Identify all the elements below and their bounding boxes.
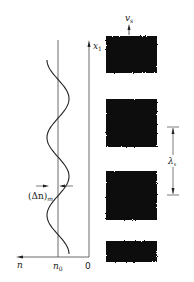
x1-label: x1 [93, 41, 102, 52]
wavelength-arrow-down-icon [172, 188, 175, 194]
zero-label: 0 [85, 261, 91, 271]
modulation-label: (Δn)m [28, 191, 53, 202]
fringe-band [106, 241, 157, 262]
velocity-label: vs [125, 13, 133, 24]
velocity-arrow-icon [128, 24, 131, 30]
n-axis-arrow-icon [16, 256, 23, 259]
fringe-bands [106, 36, 157, 262]
n-axis-label: n [17, 260, 23, 270]
fringe-band [106, 171, 157, 220]
modulation-arrow-right-icon [59, 185, 65, 188]
figure-canvas: x1 (Δn)m n n0 0 vs λs [0, 0, 194, 282]
x1-axis-arrow-icon [88, 40, 91, 47]
fringe-band [106, 36, 157, 73]
n0-label: n0 [53, 261, 63, 272]
modulation-arrow-left-icon [43, 185, 49, 188]
wavelength-arrow-up-icon [172, 128, 175, 134]
fringe-band [106, 99, 157, 147]
